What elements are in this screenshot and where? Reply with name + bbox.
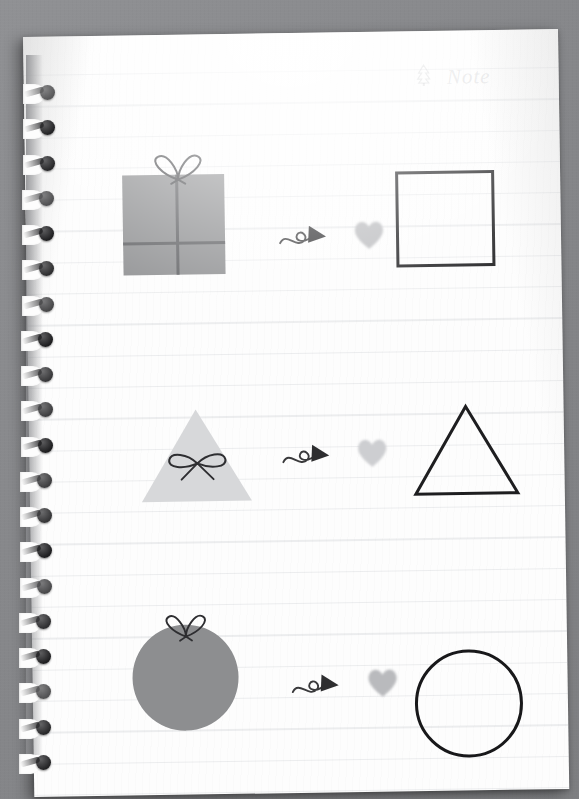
binding-ring — [36, 755, 51, 770]
gift-triangle — [141, 409, 252, 503]
curly-arrow-right-icon — [290, 669, 350, 704]
binding-ring — [38, 438, 53, 453]
binding-ring — [37, 579, 52, 594]
binding-ring — [38, 367, 53, 382]
heart-icon — [352, 219, 386, 252]
binding-ring — [40, 85, 55, 100]
note-header: Note — [413, 62, 490, 90]
notebook-page: Note — [23, 29, 569, 797]
triangle-outline — [411, 403, 522, 499]
binding-ring — [40, 156, 55, 171]
binding-ring — [39, 226, 54, 241]
pine-tree-glyph — [413, 63, 433, 87]
gift-box-square — [122, 174, 225, 276]
binding-ring — [38, 402, 53, 417]
binding-ring — [36, 720, 51, 735]
spiral-binding — [0, 0, 74, 799]
binding-ring — [39, 261, 54, 276]
gift-bow-icon — [145, 149, 211, 184]
note-header-text: Note — [447, 64, 491, 89]
screenshot-root: Note — [0, 0, 579, 799]
gift-circle — [132, 624, 240, 732]
row-triangle — [28, 374, 565, 532]
gift-box-body — [122, 174, 225, 276]
binding-ring — [37, 473, 52, 488]
heart-icon — [365, 666, 399, 699]
curly-arrow-right-icon — [281, 439, 341, 474]
row-square — [25, 139, 562, 297]
square-outline — [395, 170, 495, 267]
gift-bow-icon — [161, 445, 234, 486]
gift-bow-icon — [158, 610, 214, 641]
binding-ring — [39, 297, 54, 312]
circle-outline — [414, 649, 524, 759]
heart-icon — [355, 437, 389, 470]
pine-tree-icon — [413, 63, 433, 87]
curly-arrow-right-icon — [278, 220, 338, 255]
binding-ring — [39, 191, 54, 206]
row-circle — [31, 584, 568, 742]
binding-ring — [40, 120, 55, 135]
binding-ring — [38, 332, 53, 347]
